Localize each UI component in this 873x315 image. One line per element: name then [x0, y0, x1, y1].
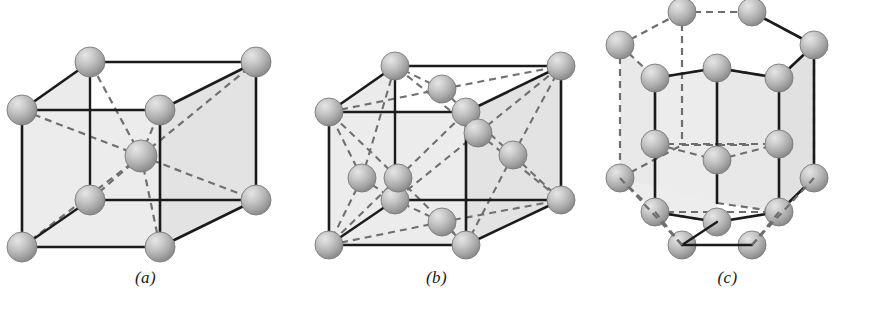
- face-right: [160, 62, 256, 247]
- fcc-diagram: [291, 0, 582, 270]
- atom-top-corner: [800, 31, 828, 59]
- atom-face-center-front: [384, 164, 412, 192]
- atom-mid-interior: [641, 130, 669, 158]
- atom-face-center-right: [499, 141, 527, 169]
- atom-corner: [547, 186, 575, 214]
- atom-face-center-top: [428, 75, 456, 103]
- atom-top-corner: [738, 0, 766, 26]
- atom-corner: [315, 231, 343, 259]
- panel-bcc: (a): [0, 0, 291, 315]
- atom-corner: [547, 52, 575, 80]
- atom-face-center-left: [348, 164, 376, 192]
- panel-hcp: (c): [582, 0, 873, 315]
- atom-mid-interior: [703, 146, 731, 174]
- atom-top-corner: [668, 0, 696, 26]
- caption-c: (c): [582, 268, 873, 288]
- atom-corner: [241, 185, 271, 215]
- atom-corner: [145, 95, 175, 125]
- atom-corner: [381, 52, 409, 80]
- atom-face-center-bottom: [428, 208, 456, 236]
- atom-corner: [75, 47, 105, 77]
- atom-face-center-back: [464, 119, 492, 147]
- panel-fcc: (b): [291, 0, 582, 315]
- hcp-diagram: [582, 0, 873, 270]
- atom-corner: [315, 98, 343, 126]
- atom-corner: [241, 47, 271, 77]
- atom-body-center: [125, 140, 157, 172]
- atom-corner: [75, 185, 105, 215]
- atom-corner: [7, 232, 37, 262]
- caption-b: (b): [291, 268, 582, 288]
- atom-top-corner: [765, 64, 793, 92]
- atom-corner: [145, 232, 175, 262]
- atom-corner: [452, 231, 480, 259]
- bcc-diagram: [0, 0, 291, 270]
- atom-top-face-center: [703, 54, 731, 82]
- atom-top-corner: [641, 64, 669, 92]
- crystal-structures-figure: (a): [0, 0, 873, 315]
- atom-mid-interior: [765, 130, 793, 158]
- atom-corner: [7, 95, 37, 125]
- atom-top-corner: [606, 31, 634, 59]
- caption-a: (a): [0, 268, 291, 288]
